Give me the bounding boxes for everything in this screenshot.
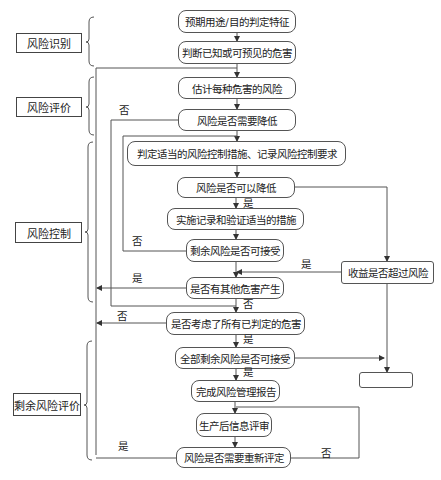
stage-label: 风险识别 [27, 35, 71, 51]
node-label: 预期用途/目的判定特征 [185, 14, 289, 29]
edge-label-yes: 是 [243, 334, 253, 345]
edge-label-no: 否 [117, 311, 127, 322]
edge-label-no: 否 [243, 299, 253, 310]
node-intended-use: 预期用途/目的判定特征 [178, 10, 296, 33]
edge-label-no: 否 [132, 236, 142, 247]
node-residual-acceptable: 剩余风险是否可接受 [186, 239, 284, 262]
bracket-residual-risk-evaluation [84, 341, 92, 460]
node-post-production-review: 生产后信息评审 [196, 413, 272, 437]
bracket-risk-control [85, 142, 93, 302]
stage-residual-risk-evaluation: 剩余风险评价 [13, 393, 81, 416]
node-estimate-risk: 估计每种危害的风险 [178, 77, 296, 99]
edge-label-yes: 是 [118, 441, 128, 452]
node-determine-controls: 判定适当的风险控制措施、记录风险控制要求 [127, 141, 346, 166]
stage-risk-control: 风险控制 [15, 222, 82, 243]
node-label: 判定适当的风险控制措施、记录风险控制要求 [137, 146, 337, 161]
node-identify-hazards: 判断已知或可预见的危害 [178, 41, 296, 64]
stage-label: 风险评价 [27, 99, 71, 115]
node-overall-residual-acceptable: 全部剩余风险是否可接受 [175, 347, 295, 369]
node-risk-management-report: 完成风险管理报告 [191, 380, 280, 402]
stage-risk-evaluation: 风险评价 [16, 97, 82, 117]
edge-label-yes: 是 [132, 273, 142, 284]
stage-risk-identification: 风险识别 [16, 33, 82, 53]
node-label: 实施记录和验证适当的措施 [176, 212, 296, 227]
node-label: 收益是否超过风险 [348, 265, 428, 280]
node-label: 风险是否需要降低 [197, 113, 277, 128]
node-risk-reducible: 风险是否可以降低 [177, 177, 295, 198]
node-label: 是否有其他危害产生 [190, 281, 280, 296]
edge-label-yes: 是 [243, 198, 253, 209]
node-label: 判断已知或可预见的危害 [182, 45, 292, 60]
node-label: 风险是否可以降低 [196, 180, 276, 195]
bracket-risk-evaluation [86, 77, 94, 135]
bracket-risk-identification [86, 17, 94, 66]
stage-label: 风险控制 [27, 225, 71, 241]
edge-label-yes: 是 [301, 259, 311, 270]
node-label: 是否考虑了所有已判定的危害 [171, 316, 301, 331]
node-all-hazards-considered: 是否考虑了所有已判定的危害 [166, 312, 305, 335]
node-benefit-outweighs-risk: 收益是否超过风险 [341, 261, 434, 284]
node-label: 估计每种危害的风险 [192, 81, 282, 96]
edge-label-no: 否 [321, 448, 331, 459]
node-label: 剩余风险是否可接受 [190, 243, 280, 258]
edge-label-yes: 是 [243, 367, 253, 378]
node-risk-reduction-needed: 风险是否需要降低 [178, 109, 296, 131]
node-implement-verify: 实施记录和验证适当的措施 [167, 208, 304, 230]
node-label: 完成风险管理报告 [196, 384, 276, 399]
stage-label: 剩余风险评价 [14, 397, 80, 413]
node-reassessment-needed: 风险是否需要重新评定 [176, 447, 291, 468]
node-new-hazards: 是否有其他危害产生 [186, 277, 284, 299]
node-empty-terminal [359, 372, 413, 388]
node-label: 全部剩余风险是否可接受 [180, 351, 290, 366]
node-label: 生产后信息评审 [199, 418, 269, 433]
edge-label-no: 否 [119, 105, 129, 116]
node-label: 风险是否需要重新评定 [184, 450, 284, 465]
